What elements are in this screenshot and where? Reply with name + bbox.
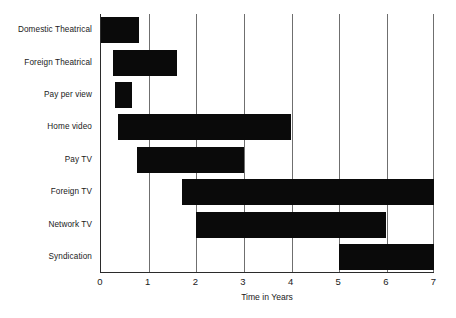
x-tick-3: 3 (240, 276, 245, 288)
y-axis-label-7: Syndication (0, 252, 92, 262)
bar-home-video (118, 114, 292, 140)
gridline-6 (387, 14, 388, 272)
y-axis-label-5: Foreign TV (0, 187, 92, 197)
x-axis-tick-labels: 0 1 2 3 4 5 6 7 (100, 276, 434, 290)
bar-pay-tv (137, 147, 244, 173)
bar-domestic-theatrical (101, 17, 139, 43)
y-axis-label-6: Network TV (0, 220, 92, 230)
y-axis-label-3: Home video (0, 122, 92, 132)
y-axis-category-labels: Domestic Theatrical Foreign Theatrical P… (0, 14, 96, 273)
y-axis-label-2: Pay per view (0, 90, 92, 100)
x-tick-2: 2 (193, 276, 198, 288)
x-tick-6: 6 (383, 276, 388, 288)
x-tick-5: 5 (336, 276, 341, 288)
bar-foreign-tv (182, 179, 434, 205)
bar-foreign-theatrical (113, 50, 177, 76)
gridline-7 (433, 14, 434, 272)
y-axis-label-0: Domestic Theatrical (0, 25, 92, 35)
y-axis-label-4: Pay TV (0, 155, 92, 165)
bar-syndication (339, 244, 434, 270)
x-axis-title: Time in Years (100, 292, 434, 303)
x-tick-4: 4 (288, 276, 293, 288)
x-tick-1: 1 (145, 276, 150, 288)
y-axis-label-1: Foreign Theatrical (0, 58, 92, 68)
bar-chart: Domestic Theatrical Foreign Theatrical P… (0, 0, 456, 318)
plot-area (100, 14, 434, 273)
x-tick-7: 7 (431, 276, 436, 288)
bar-pay-per-view (115, 82, 132, 108)
bar-network-tv (196, 212, 386, 238)
x-tick-0: 0 (97, 276, 102, 288)
